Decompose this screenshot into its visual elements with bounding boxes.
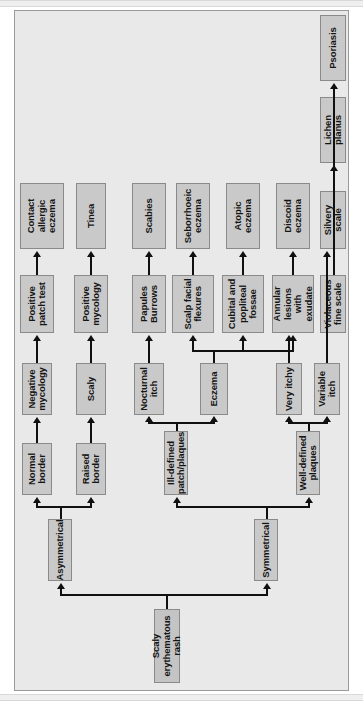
- connector-illdefined-split: [148, 422, 214, 424]
- connector-silvery-to-psoriasis: [333, 89, 335, 191]
- arrowhead-well-defined: [305, 497, 313, 503]
- arrowhead-negative-mycology: [33, 417, 41, 423]
- node-atopic-eczema[interactable]: Atopic eczema: [226, 183, 260, 249]
- arrowhead-normal-border: [33, 497, 41, 503]
- arrowhead-discoid-eczema: [289, 251, 297, 257]
- arrowhead-cubital-popliteal-fossae: [239, 335, 247, 341]
- arrowhead-nocturnal-itch: [145, 416, 153, 422]
- node-symmetrical[interactable]: Symmetrical: [254, 519, 278, 581]
- node-positive-patch-test[interactable]: Positive patch test: [20, 275, 54, 333]
- arrowhead-raised-border: [87, 497, 95, 503]
- arrowhead-positive-mycology: [87, 335, 95, 341]
- arrowhead-eczema: [210, 416, 218, 422]
- arrowhead-atopic-eczema: [239, 251, 247, 257]
- connector-patchtest-to-contact: [36, 257, 38, 275]
- connector-to-cubital: [242, 340, 244, 352]
- arrowhead-silvery-scale: [323, 251, 331, 257]
- node-root[interactable]: Scaly erythematous rash: [154, 609, 180, 683]
- connector-root-split-down: [166, 594, 266, 596]
- arrowhead-ill-defined: [173, 497, 181, 503]
- node-normal-border[interactable]: Normal border: [22, 443, 52, 495]
- connector-variableitch-to-silvery: [326, 257, 328, 363]
- node-tinea[interactable]: Tinea: [76, 183, 106, 249]
- node-discoid-eczema[interactable]: Discoid eczema: [276, 183, 310, 249]
- connector-normal-to-negmyc: [36, 423, 38, 443]
- connector-scaly-to-posmyc: [90, 341, 92, 363]
- node-eczema[interactable]: Eczema: [200, 363, 228, 415]
- arrowhead-asymmetrical: [57, 583, 65, 589]
- connector-root-split-up: [60, 594, 168, 596]
- node-scabies[interactable]: Scabies: [132, 183, 166, 249]
- flowchart-plate: Scaly erythematous rash Asymmetrical Sym…: [14, 10, 349, 691]
- connector-nocturnal-to-papules: [148, 341, 150, 363]
- node-asymmetrical[interactable]: Asymmetrical: [48, 519, 72, 581]
- connector-illdefined-out: [176, 423, 178, 431]
- page-edge-strip-top: [0, 0, 363, 7]
- connector-asymmetrical-split: [36, 506, 90, 508]
- node-positive-mycology[interactable]: Positive mycology: [74, 275, 108, 333]
- arrowhead-very-itchy: [285, 416, 293, 422]
- arrowhead-scalp-facial-flexures: [189, 335, 197, 341]
- node-contact-allergic-eczema[interactable]: Contact allergic eczema: [20, 183, 64, 249]
- arrowhead-contact-allergic-eczema: [33, 251, 41, 257]
- node-cubital-popliteal-fossae[interactable]: Cubital and popliteal fossae: [222, 275, 264, 333]
- connector-posmyc-to-tinea: [90, 257, 92, 275]
- arrowhead-positive-patch-test: [33, 335, 41, 341]
- page-canvas: Scaly erythematous rash Asymmetrical Sym…: [0, 0, 363, 701]
- connector-annular-to-discoid: [292, 257, 294, 275]
- node-nocturnal-itch[interactable]: Nocturnal itch: [134, 363, 164, 415]
- node-papules-burrows[interactable]: Papules Burrows: [132, 275, 166, 333]
- connector-symmetrical-out: [266, 507, 268, 519]
- arrowhead-tinea: [87, 251, 95, 257]
- connector-symmetrical-split: [176, 506, 308, 508]
- arrowhead-variable-itch: [323, 416, 331, 422]
- node-negative-mycology[interactable]: Negative mycology: [22, 363, 52, 415]
- arrowhead-scabies: [145, 251, 153, 257]
- node-seborrhoeic-eczema[interactable]: Seborrhoeic eczema: [176, 183, 210, 249]
- node-very-itchy[interactable]: Very itchy: [276, 363, 302, 415]
- connector-welldefined-split: [288, 422, 328, 424]
- connector-welldefined-out: [308, 423, 310, 431]
- connector-to-annular: [292, 340, 294, 352]
- arrowhead-scaly: [87, 417, 95, 423]
- node-variable-itch[interactable]: Variable itch: [314, 363, 340, 415]
- connector-scalp-to-seborrhoeic: [192, 257, 194, 275]
- connector-root-out: [166, 595, 168, 609]
- node-scaly[interactable]: Scaly: [76, 363, 106, 415]
- flowchart-rotated-canvas: Scaly erythematous rash Asymmetrical Sym…: [14, 10, 349, 691]
- arrowhead-symmetrical: [263, 583, 271, 589]
- arrowhead-psoriasis: [330, 83, 338, 89]
- node-well-defined-plaques[interactable]: Well-defined plaques: [296, 431, 320, 495]
- arrowhead-seborrhoeic-eczema: [189, 251, 197, 257]
- arrowhead-papules-burrows: [145, 335, 153, 341]
- page-edge-strip-bottom: [0, 694, 363, 701]
- connector-cubital-to-atopic: [242, 257, 244, 275]
- connector-raised-to-scaly: [90, 423, 92, 443]
- node-psoriasis[interactable]: Psoriasis: [320, 15, 346, 81]
- node-raised-border[interactable]: Raised border: [76, 443, 106, 495]
- node-ill-defined-patch-plaques[interactable]: Ill-defined patch/plaques: [164, 431, 188, 495]
- connector-eczema-out: [213, 351, 215, 363]
- connector-veryitchy-to-violaceous: [288, 341, 290, 363]
- arrowhead-violaceous-fine-scale: [285, 335, 293, 341]
- node-scalp-facial-flexures[interactable]: Scalp facial flexures: [172, 275, 214, 333]
- node-violaceous-fine-scale[interactable]: Violaceous fine scale: [320, 275, 346, 333]
- node-annular-lesions-exudate[interactable]: Annular lesions with exudate: [272, 275, 314, 333]
- connector-to-scalp-facial: [192, 340, 194, 352]
- connector-negmyc-to-patchtest: [36, 341, 38, 363]
- connector-papules-to-scabies: [148, 257, 150, 275]
- connector-asymmetrical-out: [60, 507, 62, 519]
